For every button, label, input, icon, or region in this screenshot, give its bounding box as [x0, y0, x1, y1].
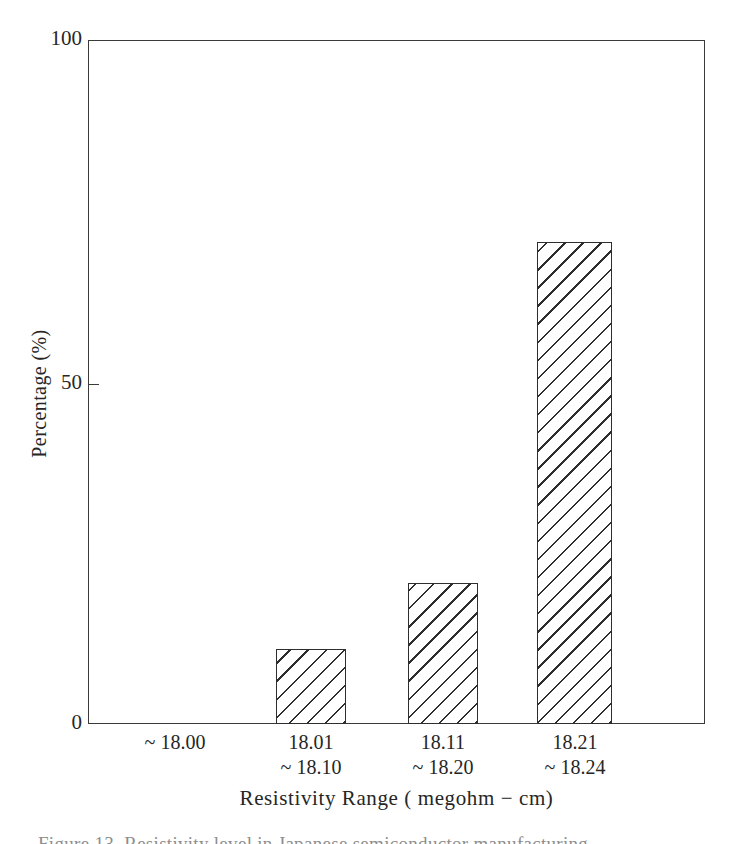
x-tick-label-2: 18.11 ~ 18.20 — [378, 730, 508, 780]
figure-caption: Figure 13. Resistivity level in Japanese… — [38, 833, 728, 844]
x-tick-line1: ~ 18.00 — [145, 731, 206, 753]
y-tick-label-0: 0 — [58, 712, 82, 733]
x-axis-title: Resistivity Range ( megohm − cm) — [88, 786, 705, 811]
x-tick-line1: 18.21 — [553, 731, 598, 753]
x-tick-line1: 18.01 — [289, 731, 334, 753]
figure-container: 100 50 0 Percentage (%) ~ 18.00 18.01 ~ … — [0, 0, 743, 844]
y-tick-mark-50 — [88, 384, 99, 385]
x-tick-line2: ~ 18.10 — [246, 755, 376, 780]
y-tick-label-50: 50 — [50, 372, 82, 393]
y-axis-title: Percentage (%) — [28, 294, 51, 494]
x-tick-label-0: ~ 18.00 — [110, 730, 240, 755]
plot-area — [88, 40, 705, 724]
bar-18-11-18-20 — [408, 583, 478, 724]
x-tick-label-1: 18.01 ~ 18.10 — [246, 730, 376, 780]
x-tick-label-3: 18.21 ~ 18.24 — [510, 730, 640, 780]
x-tick-line1: 18.11 — [421, 731, 465, 753]
y-tick-label-100: 100 — [50, 28, 82, 49]
x-tick-line2: ~ 18.20 — [378, 755, 508, 780]
x-tick-line2: ~ 18.24 — [510, 755, 640, 780]
bar-18-01-18-10 — [276, 649, 346, 724]
bar-18-21-18-24 — [537, 242, 612, 724]
